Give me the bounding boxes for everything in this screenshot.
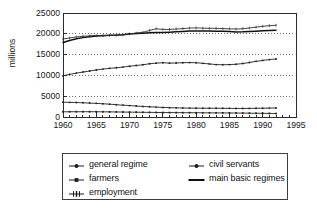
gridlines: [63, 13, 296, 96]
legend-marker: [188, 158, 205, 170]
legend-item[interactable]: farmers: [68, 171, 186, 185]
line-dot-marker-icon: [188, 160, 205, 172]
plot-area-wrapper: millions 0500010000150002000025000 19601…: [0, 0, 317, 145]
legend-marker: [68, 158, 85, 170]
legend-label: employment: [89, 187, 137, 198]
legend-marker: [68, 186, 85, 198]
legend-label: main basic regimes: [209, 173, 285, 184]
legend-column-right: civil servantsmain basic regimes: [188, 157, 288, 185]
chart-figure: millions 0500010000150002000025000 19601…: [0, 0, 317, 208]
legend-item[interactable]: general regime: [68, 157, 186, 171]
legend-label: farmers: [89, 173, 119, 184]
data-series: [62, 111, 277, 115]
legend-item[interactable]: employment: [68, 185, 186, 199]
legend-item[interactable]: main basic regimes: [188, 171, 288, 185]
plot-canvas: [0, 0, 317, 145]
legend-label: civil servants: [209, 159, 259, 170]
line-dot-marker-icon: [68, 160, 85, 172]
legend-marker: [68, 172, 85, 184]
legend-item[interactable]: civil servants: [188, 157, 288, 171]
legend-label: general regime: [89, 159, 148, 170]
data-series: [62, 58, 277, 77]
data-series: [62, 101, 277, 109]
data-series-group: [62, 24, 277, 115]
chart-legend: general regimefarmersemployment civil se…: [62, 153, 288, 200]
data-series: [63, 30, 276, 42]
legend-column-left: general regimefarmersemployment: [68, 157, 186, 199]
plain-line-marker-icon: [188, 174, 205, 186]
legend-marker: [188, 172, 205, 184]
line-plus-marker-icon: [68, 188, 85, 200]
line-square-marker-icon: [68, 174, 85, 186]
